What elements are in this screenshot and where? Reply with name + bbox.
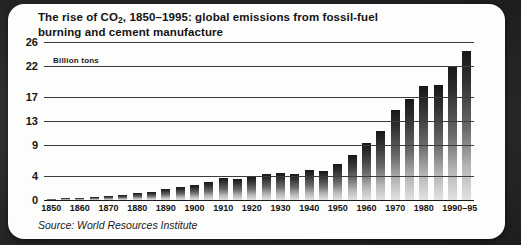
x-tick-label-1860: 1860 <box>70 203 90 213</box>
y-tick-label-26: 26 <box>26 36 38 48</box>
bar-1940 <box>305 170 314 200</box>
x-tick-label-1850: 1850 <box>41 203 61 213</box>
x-tick-label-1920: 1920 <box>242 203 262 213</box>
co2-subscript: 2 <box>118 15 123 25</box>
x-tick-label-1890: 1890 <box>156 203 176 213</box>
bar-1890 <box>161 189 170 200</box>
chart-title-line-1: The rise of CO2, 1850–1995: global emiss… <box>38 11 378 23</box>
bar-1950 <box>333 164 342 200</box>
y-tick-label-13: 13 <box>26 115 38 127</box>
x-tick-label-1900: 1900 <box>184 203 204 213</box>
x-tick-label-1950: 1950 <box>328 203 348 213</box>
bar-1990 <box>448 66 457 200</box>
x-tick-label-1930: 1930 <box>270 203 290 213</box>
chart-title-line-2: burning and cement manufacture <box>38 26 223 38</box>
y-tick-label-17: 17 <box>26 91 38 103</box>
bar-1920 <box>247 177 256 200</box>
bar-1925 <box>262 174 271 200</box>
x-tick-label-1910: 1910 <box>213 203 233 213</box>
y-tick-label-9: 9 <box>32 139 38 151</box>
bar-1970 <box>391 110 400 200</box>
screenshot-stage: The rise of CO2, 1850–1995: global emiss… <box>0 0 521 245</box>
x-tick-label-1980: 1980 <box>414 203 434 213</box>
bar-1965 <box>376 131 385 200</box>
x-tick-label-1960: 1960 <box>356 203 376 213</box>
bar-1910 <box>219 178 228 200</box>
y-axis-labels: 04913172226 <box>8 42 38 200</box>
x-tick-label-1970: 1970 <box>385 203 405 213</box>
bar-1985 <box>434 85 443 200</box>
chart-title: The rise of CO2, 1850–1995: global emiss… <box>38 11 468 39</box>
bar-1935 <box>290 174 299 200</box>
gridline-13 <box>44 121 474 122</box>
plot-area <box>44 42 474 200</box>
bar-1895 <box>176 187 185 200</box>
bar-1905 <box>204 182 213 200</box>
chart-card: The rise of CO2, 1850–1995: global emiss… <box>8 4 505 239</box>
x-axis-labels: 1850186018701880189019001910192019301940… <box>44 203 474 217</box>
gridline-4 <box>44 176 474 177</box>
bar-1955 <box>348 155 357 200</box>
bar-1960 <box>362 143 371 200</box>
y-tick-label-4: 4 <box>32 170 38 182</box>
bar-1880 <box>133 193 142 200</box>
bar-1900 <box>190 185 199 200</box>
gridline-22 <box>44 66 474 67</box>
gridline-9 <box>44 145 474 146</box>
source-note: Source: World Resources Institute <box>38 219 197 231</box>
bar-1885 <box>147 192 156 201</box>
y-tick-label-0: 0 <box>32 194 38 206</box>
x-tick-label-1870: 1870 <box>98 203 118 213</box>
gridline-17 <box>44 97 474 98</box>
bar-1975 <box>405 99 414 200</box>
y-tick-label-22: 22 <box>26 60 38 72</box>
x-tick-label-1880: 1880 <box>127 203 147 213</box>
gridline-0 <box>44 200 474 201</box>
bar-1995 <box>462 51 471 200</box>
x-tick-label-1990-95: 1990–95 <box>442 203 477 213</box>
bar-1915 <box>233 179 242 200</box>
bar-1930 <box>276 173 285 200</box>
gridline-26 <box>44 42 474 43</box>
bar-1980 <box>419 86 428 200</box>
x-tick-label-1940: 1940 <box>299 203 319 213</box>
